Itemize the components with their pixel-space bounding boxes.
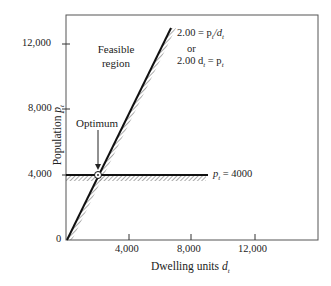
- population-constraint-hatch: [66, 176, 206, 181]
- x-axis-title-text: Dwelling units: [151, 260, 219, 272]
- x-axis-title: Dwelling units dt: [151, 261, 230, 275]
- x-tick-label-8000: 8,000: [177, 244, 201, 255]
- y-axis-var: p: [51, 107, 63, 113]
- y-tick-label-4000: 4,000: [28, 169, 52, 180]
- population-constraint-label: pt = 4000: [213, 169, 252, 182]
- y-axis-title-text: Population: [51, 116, 63, 166]
- ratio-equation-label: 2.00 = pt/dt or 2.00 dt = pt: [177, 27, 224, 71]
- feasible-line2: region: [96, 56, 136, 70]
- y-axis-sub: t: [58, 105, 66, 107]
- y-tick-label-8000: 8,000: [28, 103, 52, 114]
- x-tick-label-12000: 12,000: [238, 244, 267, 255]
- optimum-label: Optimum: [76, 118, 118, 129]
- eq1-sub2: t: [222, 33, 224, 41]
- feasible-line1: Feasible: [96, 42, 136, 56]
- eq1-rest: /d: [214, 27, 222, 38]
- eq2-a: 2.00 d: [177, 55, 203, 66]
- y-axis-title: Population pt: [52, 90, 66, 180]
- x-tick-label-4000: 4,000: [115, 244, 139, 255]
- eq-or: or: [177, 43, 224, 55]
- y-tick-label-12000: 12,000: [22, 38, 51, 49]
- hline-rest: = 4000: [220, 168, 252, 179]
- eq1-a: 2.00 = p: [177, 27, 212, 38]
- x-axis-sub: t: [228, 267, 230, 275]
- feasible-region-label: Feasible region: [96, 42, 136, 70]
- eq2-rest: = p: [205, 55, 221, 66]
- y-tick-label-0: 0: [56, 234, 61, 245]
- eq2-sub2: t: [222, 61, 224, 69]
